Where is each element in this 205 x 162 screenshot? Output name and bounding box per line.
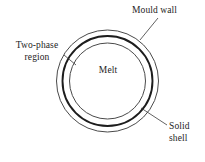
solid-shell-leader-line [141,108,167,125]
two-phase-label-line2: region [6,52,68,64]
mould-wall-leader-line [140,18,158,40]
melt-label-text: Melt [99,65,117,75]
two-phase-boundary-circle [70,43,146,119]
solid-shell-label: Solid shell [169,121,190,144]
mould-wall-label: Mould wall [132,5,177,17]
solid-shell-label-line2: shell [169,133,190,145]
two-phase-region-label: Two-phase region [6,40,68,63]
melt-label: Melt [88,65,128,77]
solid-shell-label-line1: Solid [169,121,190,131]
mould-wall-label-text: Mould wall [132,5,177,15]
figure-canvas: Mould wall Two-phase region Solid shell … [0,0,205,162]
two-phase-label-line1: Two-phase [16,40,58,50]
solid-shell-circle [63,36,153,126]
mould-wall-circle [57,30,159,132]
